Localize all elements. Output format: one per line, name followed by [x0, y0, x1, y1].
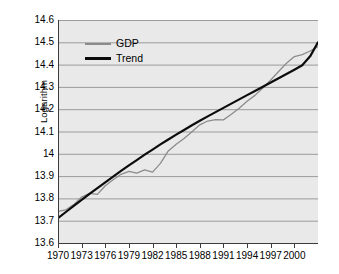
x-axis-line — [58, 243, 318, 244]
y-tick-label: 14.5 — [2, 37, 54, 47]
y-tick-label: 13.8 — [2, 193, 54, 203]
x-tick-mark — [223, 243, 224, 248]
x-tick-mark — [271, 243, 272, 248]
y-tick-label: 14.6 — [2, 15, 54, 25]
x-tick-mark — [200, 243, 201, 248]
chart-legend: GDP Trend — [85, 36, 159, 66]
x-tick-label: 2000 — [274, 250, 314, 261]
legend-item-gdp: GDP — [85, 36, 159, 51]
chart-figure: Logarithm 14.614.514.414.314.214.11413.9… — [0, 0, 339, 274]
y-tick-label: 14 — [2, 149, 54, 159]
x-tick-mark — [129, 243, 130, 248]
y-axis-line — [58, 20, 59, 244]
y-tick-label: 13.6 — [2, 238, 54, 248]
y-tick-label: 13.7 — [2, 216, 54, 226]
y-tick-label: 14.1 — [2, 127, 54, 137]
y-tick-label: 13.9 — [2, 171, 54, 181]
x-tick-mark — [176, 243, 177, 248]
y-axis-ticks: 14.614.514.414.314.214.11413.913.813.713… — [0, 0, 54, 274]
legend-label-trend: Trend — [116, 51, 143, 66]
y-tick-label: 14.4 — [2, 60, 54, 70]
x-tick-mark — [247, 243, 248, 248]
x-tick-mark — [82, 243, 83, 248]
x-tick-mark — [58, 243, 59, 248]
legend-swatch-gdp-icon — [85, 43, 111, 45]
legend-item-trend: Trend — [85, 51, 159, 66]
y-tick-label: 14.2 — [2, 104, 54, 114]
legend-swatch-trend-icon — [85, 57, 111, 60]
x-tick-mark — [105, 243, 106, 248]
y-tick-label: 14.3 — [2, 82, 54, 92]
x-tick-mark — [294, 243, 295, 248]
x-tick-mark — [153, 243, 154, 248]
legend-label-gdp: GDP — [116, 36, 139, 51]
